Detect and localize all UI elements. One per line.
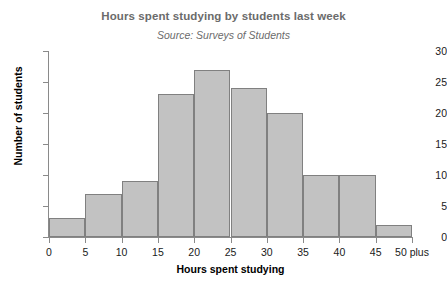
y-tick-label: 25 <box>409 77 447 88</box>
x-tick-label: 5 <box>82 246 88 258</box>
x-axis-title: Hours spent studying <box>49 263 412 275</box>
x-tick-mark <box>158 238 159 243</box>
x-tick-mark <box>412 238 413 243</box>
x-tick-label: 40 <box>334 246 346 258</box>
x-tick-label: 20 <box>188 246 200 258</box>
x-tick-label: 25 <box>225 246 237 258</box>
histogram-bar <box>231 88 267 237</box>
x-tick-mark <box>122 238 123 243</box>
x-tick-mark <box>339 238 340 243</box>
chart-page: Hours spent studying by students last we… <box>0 0 447 281</box>
plot-area <box>49 51 412 237</box>
x-tick-mark <box>267 238 268 243</box>
x-tick-label: 35 <box>297 246 309 258</box>
y-tick-label: 10 <box>409 170 447 181</box>
y-axis-title: Number of students <box>12 36 24 196</box>
x-tick-label: 0 <box>46 246 52 258</box>
y-tick-label: 20 <box>409 108 447 119</box>
chart-subtitle: Source: Surveys of Students <box>0 29 447 41</box>
x-tick-label: 30 <box>261 246 273 258</box>
x-tick-mark <box>85 238 86 243</box>
x-tick-label: 45 <box>370 246 382 258</box>
y-tick-label: 0 <box>409 232 447 243</box>
histogram-bar <box>49 218 85 237</box>
histogram-bar <box>122 181 158 237</box>
histogram-bar <box>303 175 339 237</box>
x-tick-mark <box>49 238 50 243</box>
y-tick-label: 30 <box>409 46 447 57</box>
histogram-bar <box>158 94 194 237</box>
chart-title: Hours spent studying by students last we… <box>0 10 447 22</box>
x-tick-mark <box>194 238 195 243</box>
x-tick-label: 50 plus <box>395 246 429 258</box>
x-tick-mark <box>376 238 377 243</box>
x-tick-label: 10 <box>116 246 128 258</box>
y-tick-label: 5 <box>409 201 447 212</box>
x-tick-mark <box>231 238 232 243</box>
histogram-bar <box>194 70 230 237</box>
histogram-bar <box>267 113 303 237</box>
histogram-bar <box>85 194 121 237</box>
y-tick-label: 15 <box>409 139 447 150</box>
x-tick-label: 15 <box>152 246 164 258</box>
histogram-bar <box>376 225 412 237</box>
x-tick-mark <box>303 238 304 243</box>
histogram-bar <box>339 175 375 237</box>
